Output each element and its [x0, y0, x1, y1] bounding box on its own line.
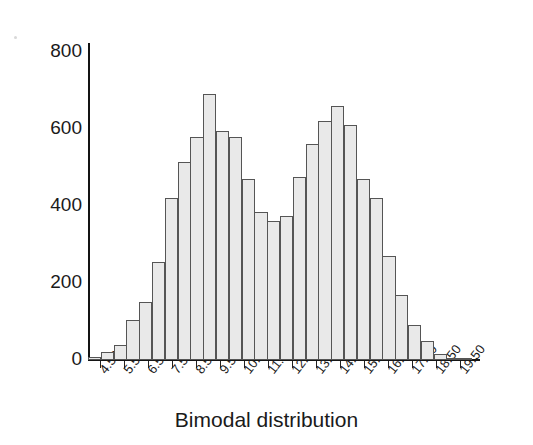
- histogram-bar: [446, 358, 459, 360]
- histogram-bar: [229, 137, 242, 361]
- histogram-bar: [101, 352, 114, 360]
- histogram-bar: [126, 320, 139, 360]
- histogram-figure: 8006004002000 4.505.506.507.508.509.5010…: [0, 0, 533, 445]
- histogram-bar: [382, 256, 395, 360]
- histogram-bar: [152, 262, 165, 360]
- y-axis-tick-label: 800: [32, 41, 82, 60]
- scan-artifact-speck: [14, 36, 17, 39]
- histogram-bar: [190, 137, 203, 361]
- y-axis-tick-text: 400: [36, 195, 82, 214]
- y-axis-tick-text: 800: [36, 41, 82, 60]
- histogram-bar: [242, 179, 255, 360]
- histogram-bar: [216, 131, 229, 360]
- histogram-bar: [267, 221, 280, 360]
- histogram-bar: [280, 216, 293, 361]
- histogram-bar: [178, 162, 191, 360]
- y-axis-tick-text: 0: [36, 349, 82, 368]
- histogram-bar: [318, 121, 331, 360]
- histogram-bar: [203, 94, 216, 360]
- histogram-bar: [254, 212, 267, 360]
- histogram-bar: [370, 198, 383, 360]
- histogram-bar: [357, 179, 370, 360]
- histogram-bar: [331, 106, 344, 360]
- histogram-bar: [434, 354, 447, 360]
- histogram-bar: [306, 144, 319, 360]
- histogram-bar: [114, 345, 127, 360]
- y-axis-tick-label: 400: [32, 195, 82, 214]
- histogram-bar: [395, 295, 408, 361]
- histogram-bar: [421, 341, 434, 360]
- y-axis-tick-label: 600: [32, 118, 82, 137]
- chart-title: Bimodal distribution: [0, 408, 533, 432]
- histogram-bar: [293, 177, 306, 360]
- histogram-bar: [139, 302, 152, 360]
- y-axis-tick-label: 200: [32, 272, 82, 291]
- histogram-bar: [459, 358, 472, 360]
- histogram-bars: [88, 43, 480, 360]
- y-axis-tick-label: 0: [32, 349, 82, 368]
- histogram-bar: [88, 357, 101, 360]
- y-axis-tick-text: 600: [36, 118, 82, 137]
- y-axis-tick-text: 200: [36, 272, 82, 291]
- histogram-bar: [408, 325, 421, 360]
- histogram-bar: [344, 125, 357, 360]
- histogram-bar: [165, 198, 178, 360]
